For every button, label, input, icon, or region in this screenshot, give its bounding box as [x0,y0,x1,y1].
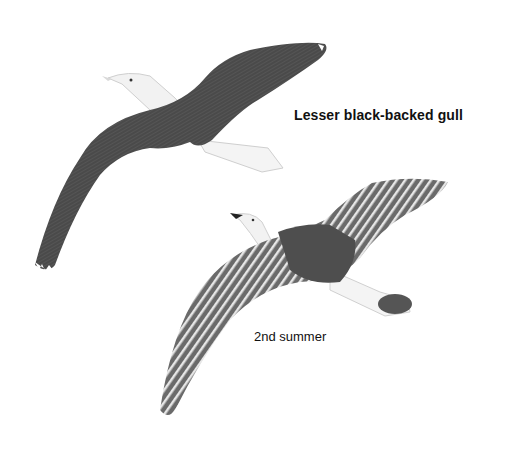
species-label: Lesser black-backed gull [294,107,463,123]
age-caption: 2nd summer [254,329,326,344]
second-summer-gull [160,179,448,415]
gull-illustration: Lesser black-backed gull 2nd summer [0,0,506,454]
gull-drawings [0,0,506,454]
